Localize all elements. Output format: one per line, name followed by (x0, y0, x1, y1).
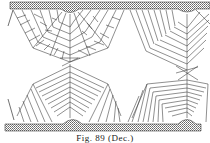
upper-right-line-fan (130, 10, 210, 74)
diagram (0, 0, 210, 143)
upper-left-brick-fan (13, 10, 124, 62)
lower-right-chevron-fan (128, 66, 208, 122)
lower-left-chevron-fan (17, 58, 121, 122)
figure-caption: Fig. 89 (Dec.) (0, 133, 210, 143)
left-tick-marks (8, 10, 14, 120)
top-plate (10, 2, 210, 13)
bottom-plate (5, 120, 201, 132)
